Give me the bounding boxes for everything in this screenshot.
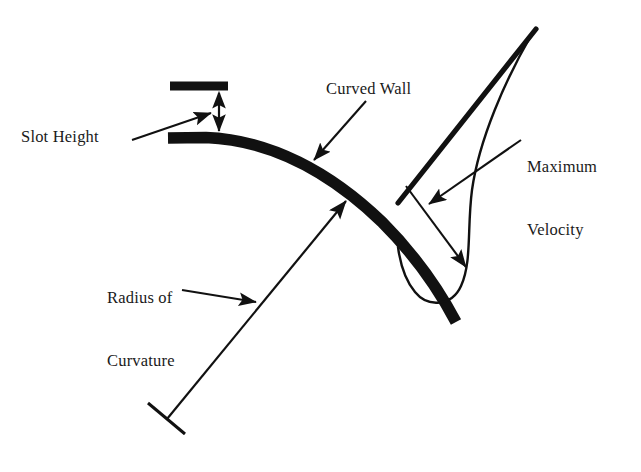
diagram-canvas: Slot Height Curved Wall Maximum Velocity…: [0, 0, 641, 472]
label-radius-line-1: Radius of: [107, 287, 175, 308]
radius-of-curvature-line: [148, 201, 346, 434]
label-maximum-velocity: Maximum Velocity: [527, 114, 597, 282]
maximum-velocity-leader-lines: [406, 140, 521, 267]
label-radius-line-2: Curvature: [107, 350, 175, 371]
label-curved-wall: Curved Wall: [326, 78, 411, 99]
label-radius-of-curvature: Radius of Curvature: [107, 245, 175, 413]
label-maximum-velocity-line-2: Velocity: [527, 219, 597, 240]
curved-wall-leader-line: [314, 101, 366, 160]
radius-leader-line: [182, 290, 256, 302]
label-maximum-velocity-line-1: Maximum: [527, 156, 597, 177]
label-slot-height: Slot Height: [21, 126, 99, 147]
slot-lip-bar: [170, 82, 228, 91]
